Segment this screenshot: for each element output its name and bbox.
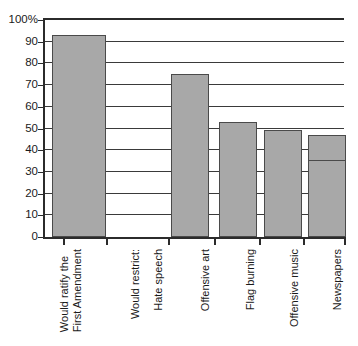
- y-tick-mark-0: [38, 237, 43, 238]
- x-label-line-2: First Amendment: [71, 249, 84, 332]
- x-label-newspapers: Newspapers: [331, 249, 344, 310]
- x-tick-mark-2: [106, 239, 108, 245]
- x-label-offensive-art: Offensive art: [199, 249, 212, 311]
- y-tick-mark-90: [38, 42, 43, 43]
- x-tick-mark-5: [259, 239, 261, 245]
- y-tick-mark-70: [38, 85, 43, 86]
- y-tick-mark-10: [38, 215, 43, 216]
- y-tick-mark-80: [38, 63, 43, 64]
- x-label-line-1: Newspapers: [331, 249, 343, 310]
- y-axis-line: [43, 20, 45, 239]
- x-label-would-restrict-group-header: Would restrict:: [129, 249, 142, 319]
- x-label-hate-speech: Hate speech: [152, 249, 165, 311]
- y-tick-label-20: 20: [25, 188, 38, 200]
- y-tick-mark-30: [38, 172, 43, 173]
- y-tick-mark-60: [38, 107, 43, 108]
- y-tick-mark-100: [38, 20, 43, 21]
- x-label-offensive-music: Offensive music: [288, 249, 301, 327]
- y-tick-label-50: 50: [25, 123, 38, 135]
- y-tick-label-90: 90: [25, 36, 38, 48]
- x-label-line-1: Offensive music: [288, 249, 300, 327]
- bar-chart: 100% 90 80 70 60 50 40 30 20 10 0 Would …: [0, 0, 358, 346]
- x-label-line-1: Would ratify the: [58, 256, 70, 332]
- y-tick-label-70: 70: [25, 79, 38, 91]
- x-label-flag-burning: Flag burning: [244, 249, 257, 310]
- x-tick-mark-6: [303, 239, 305, 245]
- x-tick-mark-4: [214, 239, 216, 245]
- y-tick-label-60: 60: [25, 101, 38, 113]
- y-tick-label-80: 80: [25, 57, 38, 69]
- x-label-line-1: Offensive art: [199, 249, 211, 311]
- plot-area-overflow: [43, 20, 344, 237]
- y-tick-label-100: 100%: [9, 14, 38, 26]
- x-tick-mark-7: [344, 239, 346, 245]
- y-tick-mark-20: [38, 194, 43, 195]
- y-tick-mark-50: [38, 129, 43, 130]
- y-tick-label-10: 10: [25, 209, 38, 221]
- y-tick-label-0: 0: [32, 231, 38, 243]
- y-tick-label-30: 30: [25, 166, 38, 178]
- y-tick-mark-40: [38, 150, 43, 151]
- y-tick-label-40: 40: [25, 144, 38, 156]
- x-label-line-1: Flag burning: [244, 249, 256, 310]
- x-tick-mark-3: [168, 239, 170, 245]
- x-label-would-ratify-first-amendment: Would ratify the First Amendment: [58, 249, 83, 332]
- x-label-line-1: Would restrict:: [129, 249, 141, 319]
- bar-newspapers: [308, 160, 346, 237]
- x-tick-mark-1: [63, 239, 65, 245]
- x-axis-line: [43, 237, 346, 239]
- x-label-line-1: Hate speech: [152, 249, 164, 311]
